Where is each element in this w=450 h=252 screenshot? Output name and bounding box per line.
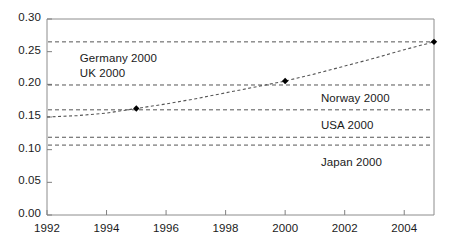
chart-plot-area: [0, 0, 450, 252]
x-axis-tick-label: 2000: [260, 222, 310, 234]
x-axis-tick-label: 2004: [379, 222, 429, 234]
y-axis-tick-label: 0.25: [0, 44, 41, 56]
y-axis-tick-label: 0.30: [0, 11, 41, 23]
y-axis-tick-label: 0.05: [0, 174, 41, 186]
reference-line-label: Germany 2000: [80, 52, 157, 64]
x-axis-tick-label: 1994: [82, 222, 132, 234]
reference-line-label: USA 2000: [321, 119, 374, 131]
x-axis-tick-label: 2002: [320, 222, 370, 234]
y-axis-tick-label: 0.10: [0, 142, 41, 154]
data-point-markers: [133, 39, 437, 112]
x-axis-tick-label: 1992: [22, 222, 72, 234]
reference-line-label: UK 2000: [80, 67, 125, 79]
x-axis-ticks: [47, 210, 404, 215]
reference-line-label: Norway 2000: [321, 92, 390, 104]
x-axis-tick-label: 1996: [141, 222, 191, 234]
y-axis-tick-label: 0.20: [0, 76, 41, 88]
y-axis-tick-label: 0.00: [0, 207, 41, 219]
chart-container: 0.000.050.100.150.200.250.30 19921994199…: [0, 0, 450, 252]
x-axis-tick-label: 1998: [201, 222, 251, 234]
plot-frame: [47, 19, 434, 215]
reference-line-label: Japan 2000: [321, 156, 382, 168]
y-axis-tick-label: 0.15: [0, 109, 41, 121]
